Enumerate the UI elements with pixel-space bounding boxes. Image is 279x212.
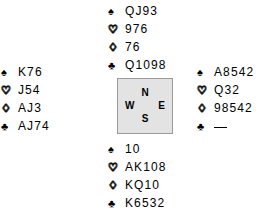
hand-west-diamonds: AJ3 (15, 102, 42, 114)
hand-east: ♠ A8542 ♡ Q32 ♢ 98542 ♣ (197, 63, 254, 135)
diamond-icon: ♢ (108, 180, 122, 191)
hand-west: ♠ K76 ♡ J54 ♢ AJ3 ♣ AJ74 (1, 63, 50, 135)
suit-row-club: ♣ K6532 (108, 194, 167, 212)
spade-icon: ♠ (1, 67, 15, 78)
suit-row-spade: ♠ 10 (108, 140, 167, 158)
hand-north: ♠ QJ93 ♡ 976 ♢ 76 ♣ Q1098 (108, 2, 167, 74)
compass-label-west: W (125, 101, 134, 111)
hand-west-clubs: AJ74 (15, 120, 50, 132)
diamond-icon: ♢ (1, 103, 15, 114)
suit-row-heart: ♡ J54 (1, 81, 50, 99)
club-icon: ♣ (108, 60, 122, 71)
suit-row-club: ♣ AJ74 (1, 117, 50, 135)
spade-icon: ♠ (197, 67, 211, 78)
heart-icon: ♡ (1, 85, 15, 96)
hand-east-clubs (211, 120, 227, 132)
suit-row-diamond: ♢ 98542 (197, 99, 254, 117)
spade-icon: ♠ (108, 6, 122, 17)
diamond-icon: ♢ (197, 103, 211, 114)
hand-south-diamonds: KQ10 (122, 179, 160, 191)
spade-icon: ♠ (108, 144, 122, 155)
suit-row-spade: ♠ A8542 (197, 63, 254, 81)
hand-south-clubs: K6532 (122, 197, 165, 209)
hand-north-hearts: 976 (122, 23, 148, 35)
heart-icon: ♡ (108, 162, 122, 173)
hand-east-spades: A8542 (211, 66, 254, 78)
compass-label-east: E (158, 101, 165, 111)
suit-row-heart: ♡ Q32 (197, 81, 254, 99)
bridge-deal-diagram: ♠ QJ93 ♡ 976 ♢ 76 ♣ Q1098 ♠ K76 ♡ J54 ♢ … (0, 0, 279, 212)
hand-west-hearts: J54 (15, 84, 41, 96)
hand-west-spades: K76 (15, 66, 43, 78)
hand-south: ♠ 10 ♡ AK108 ♢ KQ10 ♣ K6532 (108, 140, 167, 212)
suit-row-diamond: ♢ KQ10 (108, 176, 167, 194)
suit-row-club: ♣ Q1098 (108, 56, 167, 74)
suit-row-diamond: ♢ 76 (108, 38, 167, 56)
club-icon: ♣ (1, 121, 15, 132)
diamond-icon: ♢ (108, 42, 122, 53)
compass-label-south: S (118, 114, 172, 124)
suit-row-club: ♣ (197, 117, 254, 135)
suit-row-heart: ♡ AK108 (108, 158, 167, 176)
hand-north-diamonds: 76 (122, 41, 141, 53)
suit-row-heart: ♡ 976 (108, 20, 167, 38)
suit-row-spade: ♠ QJ93 (108, 2, 167, 20)
heart-icon: ♡ (108, 24, 122, 35)
hand-north-spades: QJ93 (122, 5, 158, 17)
hand-south-hearts: AK108 (122, 161, 167, 173)
void-dash (214, 127, 227, 128)
suit-row-spade: ♠ K76 (1, 63, 50, 81)
hand-north-clubs: Q1098 (122, 59, 167, 71)
hand-south-spades: 10 (122, 143, 141, 155)
suit-row-diamond: ♢ AJ3 (1, 99, 50, 117)
club-icon: ♣ (197, 121, 211, 132)
hand-east-diamonds: 98542 (211, 102, 253, 114)
hand-east-hearts: Q32 (211, 84, 240, 96)
compass-box: N W E S (117, 78, 173, 134)
compass-label-north: N (118, 88, 172, 98)
heart-icon: ♡ (197, 85, 211, 96)
club-icon: ♣ (108, 198, 122, 209)
